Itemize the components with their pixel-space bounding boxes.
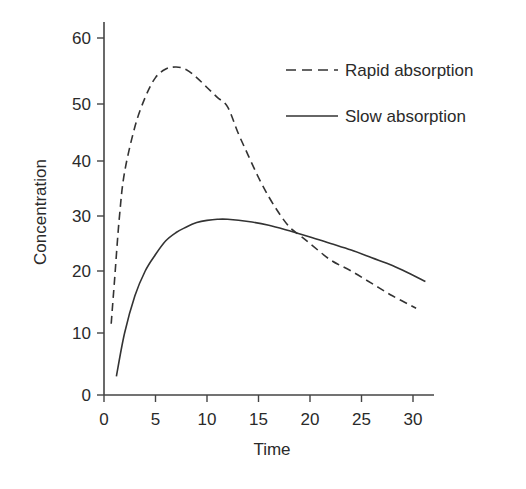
y-tick-label: 30 [72,207,91,226]
x-tick-label: 0 [99,410,108,429]
x-tick-label: 10 [198,410,217,429]
x-axis-title: Time [253,440,290,459]
rapid-absorption-line [111,67,416,324]
slow-absorption-line [116,219,425,376]
y-tick-label: 10 [72,324,91,343]
y-tick-label: 50 [72,95,91,114]
x-axis-ticks: 051015202530 [99,395,422,429]
y-axis-ticks: 0102030405060 [72,29,104,405]
x-tick-label: 30 [404,410,423,429]
y-tick-label: 40 [72,152,91,171]
x-tick-label: 25 [352,410,371,429]
legend-label-slow: Slow absorption [345,107,466,126]
y-tick-label: 0 [82,386,91,405]
concentration-time-chart: 0102030405060 051015202530 Time Concentr… [0,0,526,489]
legend-label-rapid: Rapid absorption [345,61,474,80]
plot-area: 0102030405060 051015202530 [72,22,434,429]
y-axis-title: Concentration [31,159,50,265]
x-tick-label: 5 [151,410,160,429]
legend-item-rapid: Rapid absorption [286,61,474,80]
legend: Rapid absorption Slow absorption [286,61,474,126]
y-tick-label: 60 [72,29,91,48]
x-tick-label: 20 [301,410,320,429]
legend-item-slow: Slow absorption [286,107,466,126]
y-tick-label: 20 [72,262,91,281]
x-tick-label: 15 [249,410,268,429]
